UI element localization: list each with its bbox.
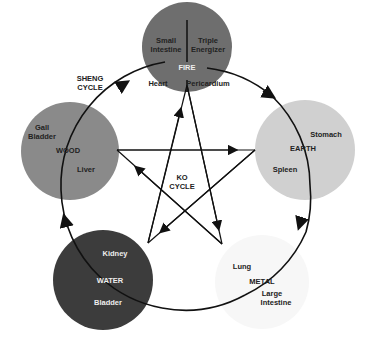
five-elements-diagram: Small Intestine Triple Energizer Heart P…	[0, 0, 367, 341]
water-organ-kidney: Kidney	[102, 249, 128, 258]
sheng-cycle-label-1: SHENG	[77, 74, 104, 83]
metal-label: METAL	[249, 277, 275, 286]
fire-organ-pericardium: Pericardium	[186, 79, 230, 88]
earth-organ-spleen: Spleen	[273, 165, 298, 174]
wood-label: WOOD	[56, 146, 81, 155]
ko-cycle-label-2: CYCLE	[169, 182, 194, 191]
fire-organ-triple-1: Triple	[198, 36, 218, 45]
earth-label: EARTH	[290, 144, 316, 153]
wood-organ-gall-2: Bladder	[28, 132, 56, 141]
fire-organ-small-2: Intestine	[151, 45, 182, 54]
fire-organ-small-1: Small	[156, 36, 176, 45]
fire-organ-triple-2: Energizer	[191, 45, 225, 54]
ko-cycle-label-1: KO	[176, 173, 187, 182]
fire-label: FIRE	[178, 63, 195, 72]
sheng-cycle-label-2: CYCLE	[77, 83, 102, 92]
metal-organ-large-1: Large	[262, 289, 282, 298]
metal-organ-lung: Lung	[233, 262, 252, 271]
ko-cycle	[117, 85, 255, 244]
water-organ-bladder: Bladder	[94, 298, 122, 307]
fire-organ-heart: Heart	[148, 79, 168, 88]
wood-organ-gall-1: Gall	[35, 123, 49, 132]
earth-organ-stomach: Stomach	[310, 130, 342, 139]
metal-organ-large-2: Intestine	[261, 298, 292, 307]
wood-organ-liver: Liver	[77, 165, 95, 174]
water-label: WATER	[97, 276, 124, 285]
